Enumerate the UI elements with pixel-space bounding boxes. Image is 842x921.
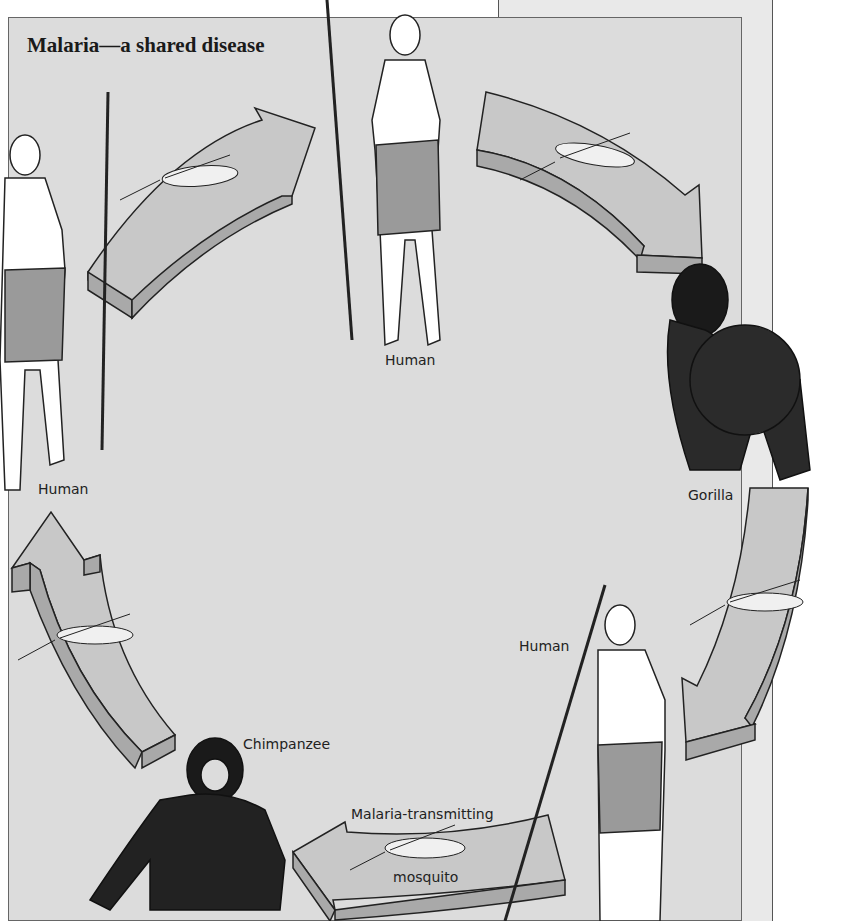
label-human-left: Human	[38, 481, 89, 497]
diagram-title: Malaria—a shared disease	[27, 33, 265, 58]
arrow-gorilla-to-right	[682, 488, 808, 760]
label-mosquito-line1: Malaria-transmitting	[351, 806, 494, 822]
arrow-top-to-gorilla	[477, 92, 702, 274]
gorilla-figure	[668, 264, 811, 480]
cycle-artwork	[0, 0, 842, 921]
label-human-right: Human	[519, 638, 570, 654]
chimpanzee-figure	[90, 738, 285, 910]
arrow-right-to-chimp	[293, 815, 565, 921]
arrow-left-to-top	[88, 108, 315, 318]
label-mosquito-line2: mosquito	[393, 869, 458, 885]
label-human-top: Human	[385, 352, 436, 368]
human-figure-top	[327, 0, 440, 345]
label-chimpanzee: Chimpanzee	[243, 736, 330, 752]
label-gorilla: Gorilla	[688, 487, 733, 503]
